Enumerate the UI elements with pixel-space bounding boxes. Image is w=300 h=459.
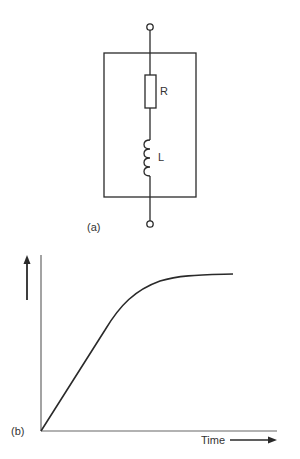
figure-canvas bbox=[0, 0, 300, 459]
figure-b-label: (b) bbox=[11, 426, 24, 437]
resistor-label: R bbox=[160, 86, 168, 97]
inductor-icon bbox=[144, 140, 150, 176]
circuit-diagram bbox=[104, 24, 196, 227]
up-arrow-icon bbox=[24, 255, 31, 300]
top-terminal-icon bbox=[147, 24, 153, 30]
x-axis-label: Time bbox=[201, 435, 225, 446]
inductor-label: L bbox=[158, 152, 164, 163]
right-arrow-icon bbox=[230, 437, 277, 444]
figure-a-label: (a) bbox=[87, 222, 100, 233]
bottom-terminal-icon bbox=[147, 221, 153, 227]
resistor-icon bbox=[145, 75, 156, 108]
response-graph bbox=[24, 255, 278, 444]
response-curve bbox=[41, 274, 233, 431]
